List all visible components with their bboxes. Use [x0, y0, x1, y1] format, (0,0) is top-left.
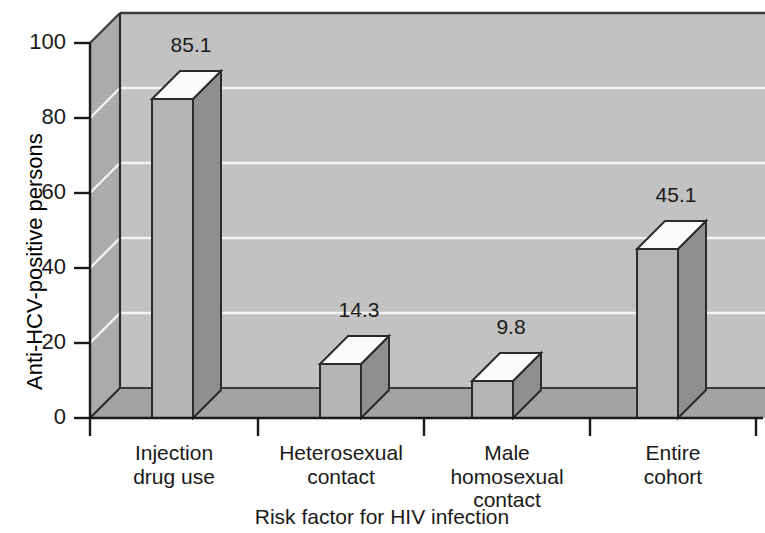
bar-front-face	[320, 364, 361, 418]
y-tick-label-80: 80	[8, 105, 66, 130]
x-category-label-male-homosexual-contact: Male homosexual contact	[427, 441, 587, 512]
bar-front-face	[637, 249, 678, 418]
chart-figure: 100 80 60 40 20 0 Anti-HCV-positive pers…	[0, 0, 765, 533]
x-category-line: homosexual	[427, 465, 587, 489]
x-category-line: Heterosexual	[261, 441, 421, 465]
bar-front-face	[472, 381, 513, 418]
y-tick-label-100: 100	[8, 30, 66, 55]
x-axis-title: Risk factor for HIV infection	[182, 505, 582, 529]
bar-value-label-heterosexual-contact: 14.3	[314, 298, 404, 322]
bar-value-label-injection-drug-use: 85.1	[146, 33, 236, 57]
chart-left-wall	[90, 13, 120, 418]
x-category-line: Male	[427, 441, 587, 465]
y-tick-label-0: 0	[8, 405, 66, 430]
x-category-label-injection-drug-use: Injection drug use	[94, 441, 254, 488]
bar-value-label-entire-cohort: 45.1	[631, 183, 721, 207]
bar-side-face	[193, 71, 221, 418]
x-category-label-entire-cohort: Entire cohort	[593, 441, 753, 488]
x-category-label-heterosexual-contact: Heterosexual contact	[261, 441, 421, 488]
y-axis-ticks	[74, 43, 90, 418]
x-axis-ticks	[90, 418, 756, 436]
bar-front-face	[152, 99, 193, 418]
x-category-line: cohort	[593, 465, 753, 489]
x-category-line: drug use	[94, 465, 254, 489]
x-category-line: contact	[261, 465, 421, 489]
bar-value-label-male-homosexual-contact: 9.8	[472, 315, 550, 339]
x-category-line: Entire	[593, 441, 753, 465]
bar-entire-cohort	[637, 221, 706, 418]
bar-side-face	[678, 221, 706, 418]
x-category-line: Injection	[94, 441, 254, 465]
bar-injection-drug-use	[152, 71, 221, 418]
y-axis-title: Anti-HCV-positive persons	[22, 133, 48, 390]
